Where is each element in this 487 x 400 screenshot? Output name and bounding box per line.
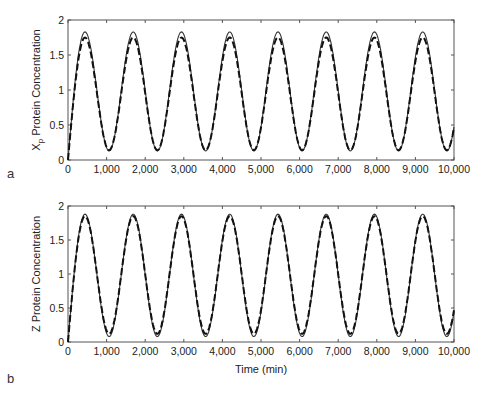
y-tick-label: 1.5 [49, 234, 64, 246]
y-tick-label: 0.5 [49, 302, 64, 314]
x-tick-label: 7,000 [325, 163, 351, 175]
plot-frame [68, 206, 454, 342]
x-tick-label: 3,000 [171, 345, 197, 357]
x-tick-label: 0 [65, 345, 71, 357]
x-tick-label: 10,000 [438, 345, 470, 357]
y-tick-label: 0 [58, 336, 64, 348]
y-tick-label: 1.5 [49, 49, 64, 61]
x-tick-label: 2,000 [132, 345, 158, 357]
panel-b: 01,0002,0003,0004,0005,0006,0007,0008,00… [30, 200, 470, 375]
y-tick-label: 2 [58, 14, 64, 26]
x-tick-label: 0 [65, 163, 71, 175]
x-tick-label: 9,000 [402, 345, 428, 357]
x-tick-label: 5,000 [248, 345, 274, 357]
y-tick-label: 0.5 [49, 119, 64, 131]
x-tick-label: 4,000 [209, 163, 235, 175]
y-axis-title: Xp Protein Concentration [30, 29, 45, 150]
x-tick-label: 8,000 [364, 345, 390, 357]
y-axis-title: Z Protein Concentration [30, 216, 42, 332]
y-tick-label: 1 [58, 84, 64, 96]
panel-a: 01,0002,0003,0004,0005,0006,0007,0008,00… [30, 14, 470, 175]
plot-frame [68, 20, 454, 160]
series-dashed-line [68, 216, 454, 342]
x-tick-label: 6,000 [286, 163, 312, 175]
x-tick-label: 9,000 [402, 163, 428, 175]
x-tick-label: 5,000 [248, 163, 274, 175]
panel-label-b: b [7, 371, 14, 386]
y-tick-label: 0 [58, 154, 64, 166]
x-tick-label: 1,000 [93, 345, 119, 357]
x-tick-label: 10,000 [438, 163, 470, 175]
panel-label-a: a [7, 166, 14, 181]
figure: 01,0002,0003,0004,0005,0006,0007,0008,00… [0, 0, 487, 400]
series-solid-line [68, 32, 454, 160]
x-axis-title: Time (min) [235, 363, 287, 375]
x-tick-label: 8,000 [364, 163, 390, 175]
x-tick-label: 6,000 [286, 345, 312, 357]
x-tick-label: 1,000 [93, 163, 119, 175]
y-tick-label: 2 [58, 200, 64, 212]
chart-canvas: 01,0002,0003,0004,0005,0006,0007,0008,00… [0, 0, 487, 400]
y-tick-label: 1 [58, 268, 64, 280]
x-tick-label: 7,000 [325, 345, 351, 357]
series-solid-line [68, 214, 454, 342]
x-tick-label: 4,000 [209, 345, 235, 357]
x-tick-label: 2,000 [132, 163, 158, 175]
x-tick-label: 3,000 [171, 163, 197, 175]
